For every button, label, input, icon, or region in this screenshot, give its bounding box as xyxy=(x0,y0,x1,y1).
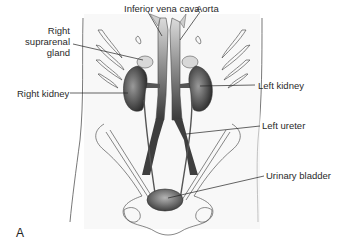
label-left-ureter: Left ureter xyxy=(262,120,305,131)
urinary-bladder xyxy=(147,189,183,211)
label-line: suprarenal xyxy=(22,36,70,47)
label-aorta: Aorta xyxy=(196,3,219,14)
right-suprarenal-gland xyxy=(137,56,153,68)
aorta xyxy=(170,18,182,120)
label-urinary-bladder: Urinary bladder xyxy=(266,170,331,181)
label-line: Right xyxy=(22,25,70,36)
label-right-suprarenal-gland: Right suprarenal gland xyxy=(22,25,70,58)
label-line: gland xyxy=(22,47,70,58)
label-inferior-vena-cava: Inferior vena cava xyxy=(124,3,200,14)
urinary-system-diagram: Inferior vena cava Aorta Right suprarena… xyxy=(0,0,346,252)
panel-letter: A xyxy=(16,226,24,240)
label-left-kidney: Left kidney xyxy=(258,80,304,91)
label-right-kidney: Right kidney xyxy=(17,88,69,99)
